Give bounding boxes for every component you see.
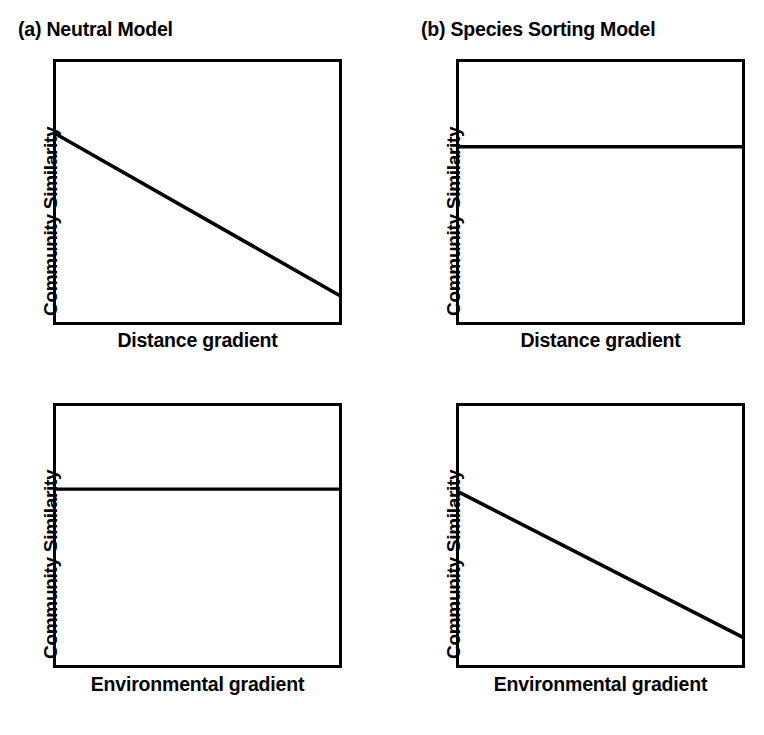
y-axis-label-b-bottom: Community Similarity [444, 470, 463, 659]
data-line-decreasing [55, 134, 340, 296]
data-line-layer [456, 59, 745, 325]
y-axis-label-b-top: Community Similarity [444, 127, 463, 316]
x-axis-label-b-bottom: Environmental gradient [443, 675, 758, 695]
x-axis-label-a-bottom: Environmental gradient [40, 675, 355, 695]
plot-a-bottom [53, 403, 342, 668]
y-axis-label-a-bottom: Community Similarity [41, 470, 60, 659]
data-line-layer [53, 403, 342, 668]
x-axis-label-b-top: Distance gradient [456, 331, 745, 351]
panel-title-a: (a) Neutral Model [18, 20, 173, 40]
figure-root: (a) Neutral Model (b) Species Sorting Mo… [0, 0, 764, 735]
x-axis-label-a-top: Distance gradient [53, 331, 342, 351]
data-line-decreasing [458, 492, 743, 638]
panel-title-b: (b) Species Sorting Model [421, 20, 655, 40]
plot-a-top [53, 59, 342, 325]
plot-b-top [456, 59, 745, 325]
plot-b-bottom [456, 403, 745, 668]
y-axis-label-a-top: Community Similarity [41, 127, 60, 316]
data-line-layer [456, 403, 745, 668]
data-line-layer [53, 59, 342, 325]
